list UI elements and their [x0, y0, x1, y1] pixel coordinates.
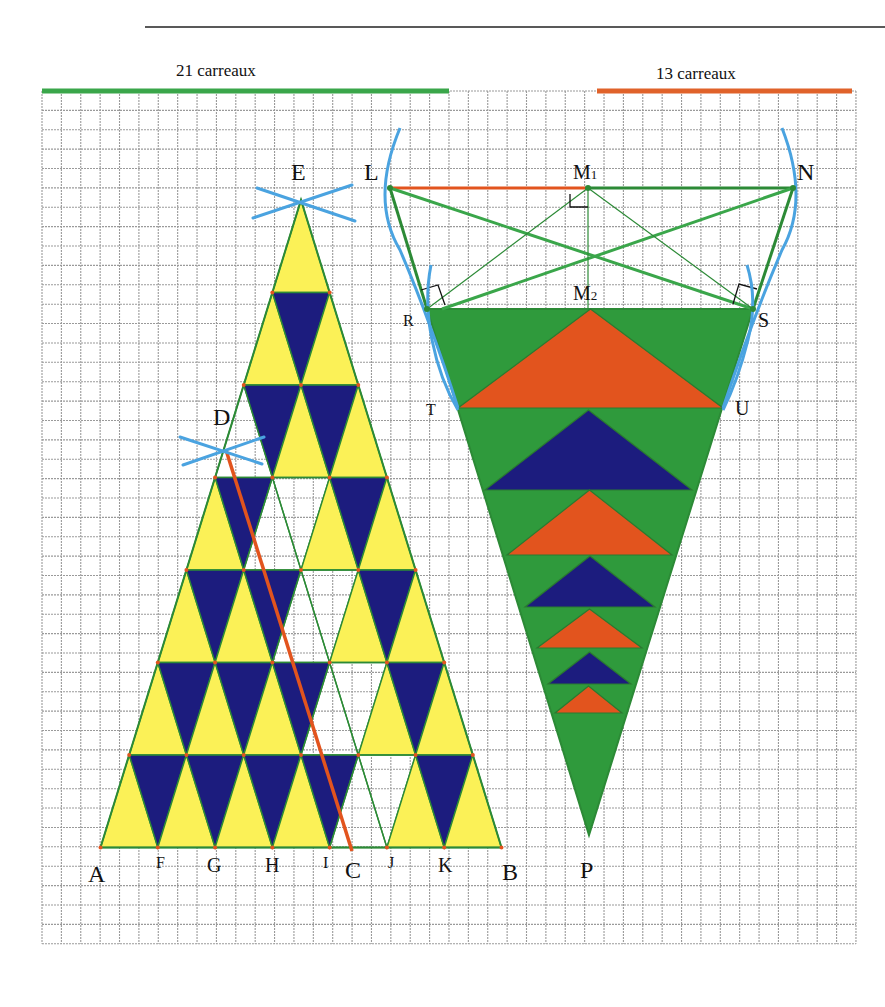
right-angle-mark-M1	[570, 194, 588, 207]
vertex-dot	[213, 661, 217, 665]
vertex-dot	[471, 753, 475, 757]
point-label-L: L	[364, 160, 379, 184]
vertex-dot	[356, 568, 360, 572]
diagonal-LS	[390, 188, 753, 309]
point-label-H: H	[265, 855, 279, 875]
vertex-dot	[385, 846, 389, 850]
point-S	[750, 306, 756, 312]
point-L	[387, 185, 393, 191]
point-label-D: D	[213, 405, 230, 429]
vertex-dot	[442, 661, 446, 665]
vertex-dot	[127, 753, 131, 757]
vertex-dot	[184, 568, 188, 572]
vertex-dot	[213, 476, 217, 480]
point-label-I: I	[323, 855, 328, 871]
vertex-dot	[213, 846, 217, 850]
vertex-dot	[385, 661, 389, 665]
vertex-dot	[270, 846, 274, 850]
point-label-T: T	[426, 402, 436, 418]
point-label-subscript: 2	[591, 288, 598, 303]
scale-label-21: 21 carreaux	[176, 62, 256, 79]
vertex-dot	[356, 383, 360, 387]
vertex-dot	[184, 753, 188, 757]
point-label-K: K	[438, 855, 452, 875]
vertex-dot	[299, 753, 303, 757]
point-label-F: F	[156, 855, 165, 871]
vertex-dot	[299, 568, 303, 572]
diagonal-NR	[442, 188, 793, 309]
scale-label-13: 13 carreaux	[656, 65, 736, 82]
point-label-C: C	[345, 858, 361, 882]
vertex-dot	[299, 383, 303, 387]
point-label-subscript: 1	[591, 167, 598, 182]
segment-M1S	[588, 188, 753, 309]
vertex-dot	[328, 291, 332, 295]
vertex-dot	[156, 846, 160, 850]
segment-LR	[390, 188, 427, 309]
vertex-dot	[270, 291, 274, 295]
point-label-A: A	[88, 862, 105, 886]
vertex-dot	[270, 476, 274, 480]
vertex-dot	[414, 753, 418, 757]
point-label-P: P	[580, 858, 593, 882]
vertex-dot	[414, 568, 418, 572]
vertex-dot	[356, 753, 360, 757]
point-label-M1: M1	[573, 162, 597, 182]
vertex-dot	[442, 846, 446, 850]
point-R	[424, 306, 430, 312]
point-N	[790, 185, 796, 191]
vertex-dot	[385, 476, 389, 480]
vertex-dot	[242, 383, 246, 387]
point-label-M2: M2	[573, 283, 597, 303]
vertex-dot	[499, 846, 503, 850]
vertex-dot	[156, 661, 160, 665]
vertex-dot	[270, 661, 274, 665]
point-label-B: B	[502, 860, 518, 884]
vertex-dot	[328, 661, 332, 665]
vertex-dot	[242, 568, 246, 572]
point-label-N: N	[797, 160, 814, 184]
diagram-canvas: 21 carreaux 13 carreaux ELM1NM2RSTUDAFGH…	[0, 0, 885, 1007]
point-label-R: R	[403, 313, 414, 329]
vertex-dot	[99, 846, 103, 850]
point-label-G: G	[207, 855, 221, 875]
point-label-U: U	[735, 398, 749, 418]
vertex-dot	[328, 476, 332, 480]
point-label-J: J	[388, 855, 394, 871]
vertex-dot	[328, 846, 332, 850]
vertex-dot	[242, 753, 246, 757]
point-label-E: E	[291, 160, 306, 184]
point-M1	[585, 185, 591, 191]
point-label-S: S	[758, 310, 769, 330]
header-scales	[42, 27, 885, 91]
